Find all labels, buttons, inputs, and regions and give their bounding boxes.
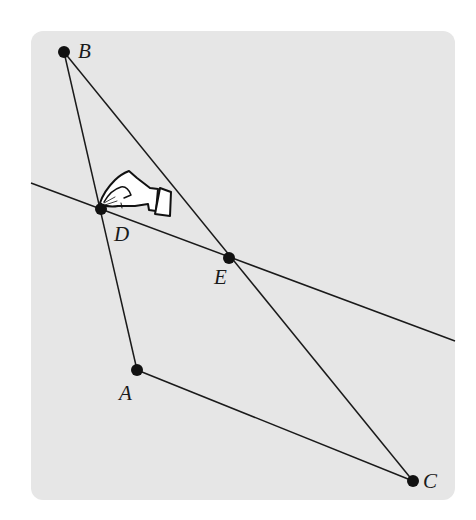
- point-B[interactable]: [58, 46, 70, 58]
- point-A[interactable]: [131, 364, 143, 376]
- geometry-drawing: [0, 0, 476, 520]
- label-B: B: [78, 41, 91, 62]
- point-E[interactable]: [223, 252, 235, 264]
- label-D: D: [114, 224, 129, 245]
- line-DE[interactable]: [31, 183, 455, 341]
- point-C[interactable]: [407, 475, 419, 487]
- label-E: E: [214, 267, 227, 288]
- label-A: A: [119, 383, 132, 404]
- label-C: C: [423, 471, 437, 492]
- grab-hand-cursor-icon: [100, 171, 171, 216]
- segment-AC[interactable]: [137, 370, 413, 481]
- segment-BC[interactable]: [64, 52, 413, 481]
